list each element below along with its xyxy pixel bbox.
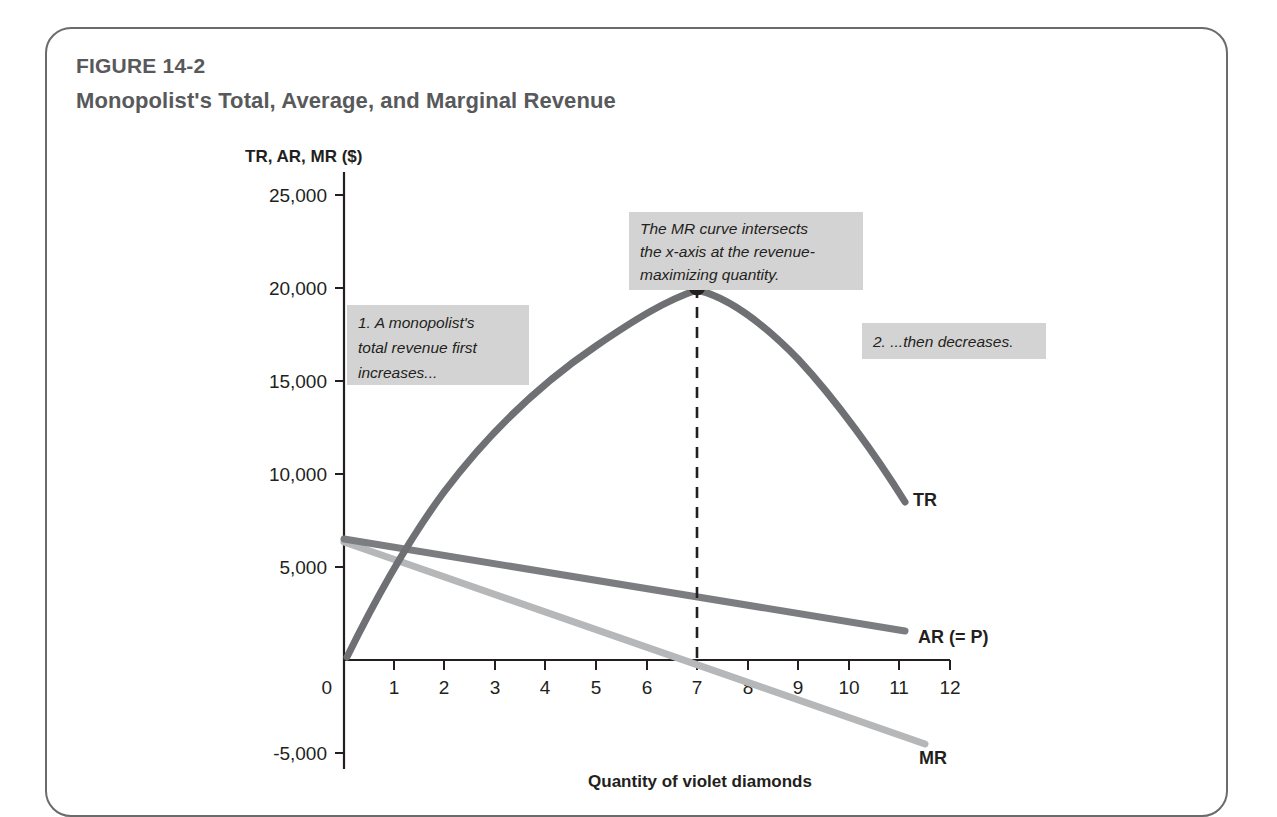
annotation-line: The MR curve intersects — [640, 220, 808, 237]
figure-card: FIGURE 14-2 Monopolist's Total, Average,… — [45, 27, 1228, 817]
revenue-chart: TR, AR, MR ($) 25,000 20,000 15,000 10,0… — [47, 29, 1228, 792]
x-tick-label: 11 — [889, 677, 909, 698]
annotation-mr-intersects-x-axis: The MR curve intersects the x-axis at th… — [629, 212, 863, 290]
y-tick-label: 10,000 — [269, 464, 327, 485]
x-tick-label: 4 — [540, 677, 551, 698]
annotation-line: total revenue first — [358, 339, 478, 356]
y-axis-tick-labels: 25,000 20,000 15,000 10,000 5,000 0 -5,0… — [269, 185, 332, 764]
y-tick-label-zero: 0 — [321, 677, 332, 698]
annotation-total-revenue-increases: 1. A monopolist's total revenue first in… — [347, 305, 529, 385]
x-tick-label: 12 — [939, 677, 960, 698]
x-tick-label: 2 — [439, 677, 450, 698]
x-tick-label: 10 — [838, 677, 859, 698]
ar-curve-label: AR (= P) — [918, 627, 989, 647]
y-axis-ticks — [335, 195, 344, 753]
annotation-line: the x-axis at the revenue- — [640, 243, 815, 260]
y-tick-label: 5,000 — [279, 557, 327, 578]
annotation-then-decreases: 2. ...then decreases. — [862, 323, 1046, 359]
mr-curve-label: MR — [919, 748, 947, 768]
ar-curve — [344, 539, 905, 631]
x-tick-label: 7 — [692, 677, 703, 698]
x-axis-tick-labels: 1 2 3 4 5 6 7 8 9 10 11 12 — [389, 677, 961, 698]
annotation-line: maximizing quantity. — [640, 266, 779, 283]
y-tick-label: 15,000 — [269, 371, 327, 392]
x-axis-title: Quantity of violet diamonds — [588, 772, 812, 791]
annotation-line: increases... — [358, 364, 437, 381]
y-axis-title: TR, AR, MR ($) — [245, 147, 362, 166]
annotation-line: 1. A monopolist's — [358, 314, 475, 331]
tr-curve-label: TR — [913, 490, 937, 510]
y-tick-label: 20,000 — [269, 278, 327, 299]
x-tick-label: 5 — [591, 677, 602, 698]
x-tick-label: 6 — [642, 677, 653, 698]
x-tick-label: 9 — [793, 677, 804, 698]
chart-svg: TR, AR, MR ($) 25,000 20,000 15,000 10,0… — [47, 29, 1228, 792]
annotation-line: 2. ...then decreases. — [872, 333, 1013, 350]
mr-curve — [344, 542, 925, 744]
x-axis-ticks — [394, 660, 950, 670]
y-tick-label: 25,000 — [269, 185, 327, 206]
y-tick-label: -5,000 — [273, 743, 327, 764]
x-tick-label: 3 — [490, 677, 501, 698]
x-tick-label: 1 — [389, 677, 400, 698]
